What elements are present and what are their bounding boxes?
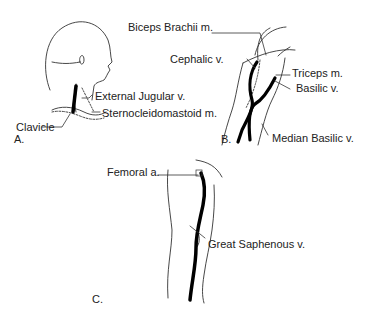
- label-external-jugular-vein: External Jugular v.: [95, 90, 185, 102]
- panel-label-b: B.: [221, 133, 231, 145]
- label-cephalic-vein: Cephalic v.: [170, 53, 224, 65]
- head-neck-drawing: [46, 22, 112, 120]
- label-clavicle: Clavicle: [16, 121, 55, 133]
- leader-lines: [42, 33, 290, 238]
- panel-label-c: C.: [92, 293, 103, 305]
- label-biceps-brachii-muscle: Biceps Brachii m.: [128, 21, 213, 33]
- label-sternocleidomastoid-muscle: Sternocleidomastoid m.: [102, 107, 217, 119]
- label-basilic-vein: Basilic v.: [296, 82, 339, 94]
- diagram-canvas: [0, 0, 365, 311]
- great-saphenous-vein: [190, 173, 204, 300]
- label-median-basilic-vein: Median Basilic v.: [272, 132, 354, 144]
- leg-drawing: [167, 160, 222, 303]
- label-femoral-artery: Femoral a.: [107, 166, 160, 178]
- panel-label-a: A.: [14, 133, 24, 145]
- arm-veins: [238, 62, 275, 142]
- label-triceps-muscle: Triceps m.: [292, 67, 343, 79]
- label-great-saphenous-vein: Great Saphenous v.: [208, 238, 305, 250]
